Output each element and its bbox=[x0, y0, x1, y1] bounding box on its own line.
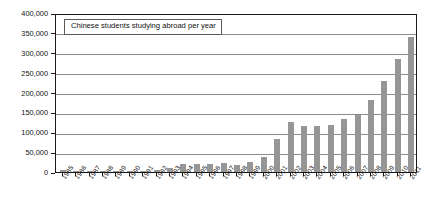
bar bbox=[207, 164, 213, 172]
x-axis: 1985198619871988198919901991199219931994… bbox=[0, 173, 435, 208]
bar bbox=[234, 165, 240, 172]
bar bbox=[274, 139, 280, 172]
bar bbox=[301, 126, 307, 173]
bar bbox=[60, 170, 66, 172]
y-axis-tick-label: 300,000 bbox=[21, 50, 48, 57]
y-axis-tick-label: 50,000 bbox=[25, 149, 48, 156]
y-axis-tick-label: 150,000 bbox=[21, 110, 48, 117]
bar bbox=[140, 171, 146, 172]
bar bbox=[328, 125, 334, 172]
bar-series bbox=[56, 15, 416, 172]
bar bbox=[288, 122, 294, 172]
y-axis-tick-label: 250,000 bbox=[21, 70, 48, 77]
y-axis-tick-label: 100,000 bbox=[21, 130, 48, 137]
bar bbox=[127, 171, 133, 172]
plot-area: Chinese students studying abroad per yea… bbox=[55, 14, 417, 173]
chart-container: 050,000100,000150,000200,000250,000300,0… bbox=[0, 0, 435, 208]
bar bbox=[221, 163, 227, 172]
bar bbox=[100, 171, 106, 172]
bar bbox=[113, 171, 119, 172]
bar bbox=[368, 100, 374, 172]
bar bbox=[355, 115, 361, 172]
bar bbox=[341, 119, 347, 172]
bar bbox=[167, 168, 173, 172]
bar bbox=[395, 59, 401, 172]
y-axis-tick-label: 400,000 bbox=[21, 10, 48, 17]
bar bbox=[247, 162, 253, 172]
bar bbox=[87, 171, 93, 172]
y-axis-tick-label: 350,000 bbox=[21, 30, 48, 37]
bar bbox=[314, 126, 320, 172]
bar bbox=[381, 81, 387, 172]
bar bbox=[408, 37, 414, 172]
bar bbox=[194, 164, 200, 172]
bar bbox=[180, 164, 186, 172]
bar bbox=[73, 171, 79, 172]
chart-title: Chinese students studying abroad per yea… bbox=[64, 19, 222, 35]
bar bbox=[154, 170, 160, 172]
bar bbox=[261, 157, 267, 173]
y-axis-tick-label: 200,000 bbox=[21, 90, 48, 97]
